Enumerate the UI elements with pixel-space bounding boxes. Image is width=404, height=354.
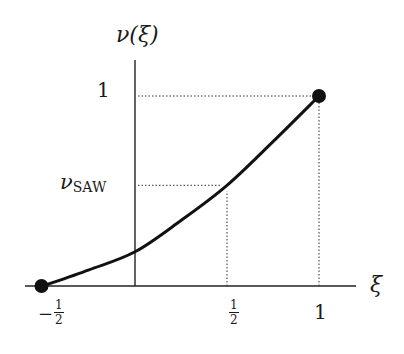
x-tick-neg-half-denominator: 2: [54, 313, 64, 326]
y-tick-1: 1: [97, 78, 110, 102]
endpoint-marker-1: [312, 89, 326, 103]
x-axis-label: ξ: [370, 272, 382, 297]
x-tick-neg-half: 1 2: [54, 299, 64, 326]
x-tick-half-denominator: 2: [229, 313, 239, 326]
nu-saw-subscript: SAW: [73, 179, 107, 195]
figure: ν(ξ) ξ 1 νSAW 1 − 1 2 1 2: [0, 0, 404, 354]
endpoint-marker-0: [35, 279, 49, 293]
nu-saw-label: νSAW: [60, 170, 106, 195]
nu-saw-main: ν: [60, 170, 73, 194]
y-axis-label: ν(ξ): [116, 22, 159, 47]
x-tick-half-numerator: 1: [229, 299, 239, 313]
x-tick-neg-half-sign: −: [38, 303, 53, 324]
x-tick-neg-half-numerator: 1: [54, 299, 64, 313]
x-tick-half: 1 2: [229, 299, 239, 326]
x-tick-1: 1: [314, 300, 327, 324]
